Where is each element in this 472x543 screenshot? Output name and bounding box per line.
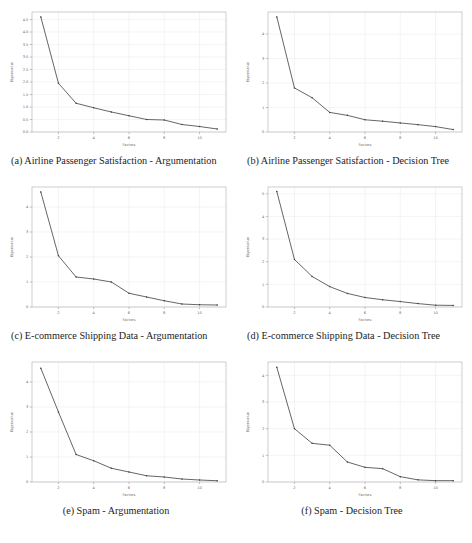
caption-line-1: (b) Airline Passenger Satisfaction - [247, 155, 390, 166]
x-axis-tick-label: 2 [293, 136, 295, 140]
subfigure-a: 2468100.00.51.01.52.02.53.03.54.04.5Fact… [2, 4, 234, 168]
data-point-marker [276, 367, 278, 369]
x-axis-tick-label: 4 [93, 311, 96, 315]
caption-line-1: (c) E-commerce Shipping Data - [11, 330, 144, 341]
data-point-marker [294, 259, 296, 261]
plot-canvas-d: 246810012345FactorsEigenvalue [238, 179, 470, 329]
data-point-marker [93, 278, 95, 280]
data-point-marker [435, 480, 437, 482]
y-axis-tick-label: 2 [26, 430, 28, 434]
x-axis-title: Factors [123, 143, 136, 147]
data-point-marker [329, 444, 331, 446]
y-axis-tick-label: 3.0 [23, 55, 29, 59]
plot-canvas-c: 24681001234FactorsEigenvalue [2, 179, 234, 329]
data-point-marker [93, 460, 95, 462]
y-axis-title: Eigenvalue [10, 61, 14, 82]
subfigure-c: 24681001234FactorsEigenvalue (c) E-comme… [2, 179, 234, 343]
y-axis-tick-label: 1 [262, 454, 264, 458]
data-point-marker [311, 276, 313, 278]
y-axis-tick-label: 3 [26, 230, 28, 234]
y-axis-tick-label: 0 [26, 305, 29, 309]
data-point-marker [417, 124, 419, 126]
data-point-marker [364, 297, 366, 299]
data-point-marker [164, 300, 166, 302]
subfigure-caption-c: (c) E-commerce Shipping Data - Argumenta… [2, 330, 234, 343]
data-point-marker [111, 468, 113, 470]
data-point-marker [216, 304, 218, 306]
y-axis-tick-label: 1.5 [23, 93, 29, 97]
data-point-marker [164, 119, 166, 121]
data-point-marker [58, 255, 60, 257]
data-point-marker [276, 191, 278, 193]
data-point-marker [111, 111, 113, 113]
x-axis-title: Factors [359, 493, 372, 497]
caption-line-2: Argumentation [155, 155, 217, 166]
figure-grid: 2468100.00.51.01.52.02.53.03.54.04.5Fact… [0, 0, 472, 543]
x-axis-tick-label: 2 [293, 311, 295, 315]
scree-plot-c: 24681001234FactorsEigenvalue [2, 179, 234, 329]
subfigure-caption-b: (b) Airline Passenger Satisfaction - Dec… [238, 155, 470, 168]
data-point-marker [128, 115, 130, 117]
x-axis-tick-label: 4 [93, 136, 96, 140]
data-point-marker [435, 126, 437, 128]
y-axis-tick-label: 3 [26, 405, 28, 409]
subfigure-f: 24681001234FactorsEigenvalue (f) Spam - … [238, 354, 470, 518]
data-point-marker [382, 120, 384, 122]
x-axis-tick-label: 10 [433, 486, 438, 490]
x-axis-title: Factors [359, 143, 372, 147]
data-point-marker [75, 276, 77, 278]
caption-line-1: (a) Airline Passenger Satisfaction - [11, 155, 153, 166]
data-point-marker [435, 304, 437, 306]
y-axis-title: Eigenvalue [246, 411, 250, 432]
caption-line-2: Decision Tree [383, 330, 440, 341]
data-point-marker [164, 476, 166, 478]
caption-line-2: Argumentation [146, 330, 208, 341]
y-axis-tick-label: 4.0 [23, 30, 29, 34]
plot-canvas-e: 24681001234FactorsEigenvalue [2, 354, 234, 504]
data-point-marker [181, 124, 183, 126]
data-point-marker [400, 122, 402, 124]
plot-canvas-a: 2468100.00.51.01.52.02.53.03.54.04.5Fact… [2, 4, 234, 154]
data-point-marker [40, 16, 42, 18]
y-axis-tick-label: 4.5 [23, 18, 29, 22]
data-point-marker [58, 83, 60, 85]
x-axis-title: Factors [359, 318, 372, 322]
data-point-marker [93, 107, 95, 109]
x-axis-tick-label: 2 [57, 136, 59, 140]
data-point-marker [329, 112, 331, 114]
data-point-marker [181, 478, 183, 480]
y-axis-tick-label: 1.0 [23, 105, 29, 109]
y-axis-tick-label: 2 [262, 427, 264, 431]
subfigure-caption-d: (d) E-commerce Shipping Data - Decision … [238, 330, 470, 343]
y-axis-tick-label: 3 [262, 57, 264, 61]
x-axis-tick-label: 8 [163, 311, 166, 315]
data-point-marker [75, 103, 77, 105]
data-point-marker [146, 296, 148, 298]
x-axis-tick-label: 2 [57, 311, 59, 315]
x-axis-tick-label: 10 [197, 136, 202, 140]
data-point-marker [417, 303, 419, 305]
data-point-marker [75, 454, 77, 456]
caption-line-1: (f) Spam - Decision Tree [301, 505, 402, 516]
data-point-marker [347, 461, 349, 463]
data-point-marker [417, 479, 419, 481]
data-point-marker [347, 115, 349, 117]
data-point-marker [40, 191, 42, 193]
subfigure-e: 24681001234FactorsEigenvalue (e) Spam - … [2, 354, 234, 518]
data-point-marker [294, 87, 296, 89]
y-axis-title: Eigenvalue [246, 236, 250, 257]
x-axis-tick-label: 4 [93, 486, 96, 490]
y-axis-tick-label: 0.0 [23, 130, 29, 134]
y-axis-tick-label: 0.5 [23, 118, 29, 122]
plot-canvas-b: 24681001234FactorsEigenvalue [238, 4, 470, 154]
x-axis-tick-label: 10 [433, 136, 438, 140]
y-axis-tick-label: 0 [262, 130, 265, 134]
y-axis-tick-label: 3 [262, 400, 264, 404]
x-axis-tick-label: 8 [163, 136, 166, 140]
subfigure-caption-a: (a) Airline Passenger Satisfaction - Arg… [2, 155, 234, 168]
x-axis-title: Factors [123, 318, 136, 322]
data-point-marker [364, 119, 366, 121]
y-axis-tick-label: 5 [262, 192, 264, 196]
caption-line-1: (d) E-commerce Shipping Data - [247, 330, 381, 341]
plot-canvas-f: 24681001234FactorsEigenvalue [238, 354, 470, 504]
